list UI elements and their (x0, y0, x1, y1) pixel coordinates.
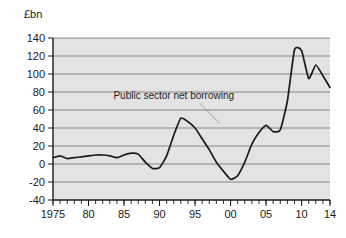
y-tick-label: 140 (27, 32, 45, 44)
x-tick-label: 14 (324, 208, 336, 220)
x-tick-label: 95 (189, 208, 201, 220)
x-tick-label: 10 (295, 208, 307, 220)
public-sector-net-borrowing-chart: 140120100806040200-20-40 197580859095000… (0, 0, 346, 238)
x-tick-label: 05 (260, 208, 272, 220)
y-tick-label: 0 (39, 158, 45, 170)
y-tick-label: -20 (29, 176, 45, 188)
chart-figure: 140120100806040200-20-40 197580859095000… (0, 0, 346, 238)
y-tick-label: 80 (33, 86, 45, 98)
y-tick-label: -40 (29, 194, 45, 206)
y-tick-label: 120 (27, 50, 45, 62)
y-tick-label: 20 (33, 140, 45, 152)
y-tick-label: 100 (27, 68, 45, 80)
x-tick-label: 85 (118, 208, 130, 220)
y-tick-label: 60 (33, 104, 45, 116)
y-tick-label: 40 (33, 122, 45, 134)
x-tick-label: 80 (82, 208, 94, 220)
x-tick-label: 00 (224, 208, 236, 220)
plot-area-background (53, 38, 330, 200)
x-tick-label: 90 (153, 208, 165, 220)
x-tick-label: 1975 (41, 208, 65, 220)
series-annotation-label: Public sector net borrowing (113, 90, 234, 101)
y-axis-unit-label: £bn (24, 8, 42, 20)
